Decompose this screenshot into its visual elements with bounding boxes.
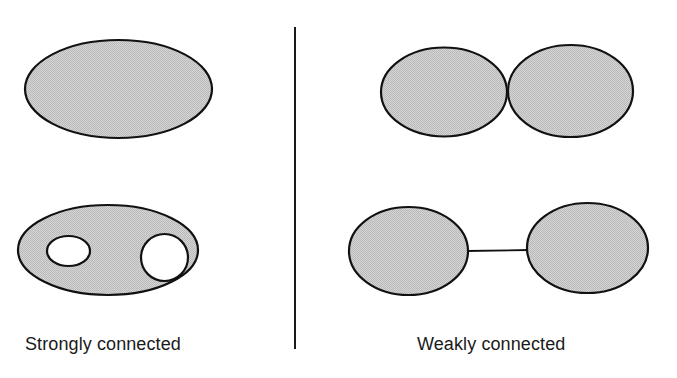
hole-left-ellipse: [47, 236, 90, 266]
caption-weakly-connected: Weakly connected: [417, 334, 565, 354]
right-panel-group: [349, 45, 648, 295]
diagram-canvas: [0, 0, 677, 378]
hole-right-circle: [141, 234, 188, 281]
figure-container: Strongly connected Weakly connected: [0, 0, 677, 378]
caption-strongly-connected: Strongly connected: [25, 334, 181, 354]
tangent-ellipse-left: [381, 48, 507, 137]
linked-ellipse-left: [349, 207, 468, 295]
tangent-ellipse-right: [508, 45, 633, 137]
connector-line: [466, 250, 529, 251]
single-filled-ellipse: [25, 40, 212, 138]
left-panel-group: [0, 40, 280, 310]
ellipse-with-two-holes: [0, 190, 280, 310]
linked-ellipse-right: [527, 203, 648, 293]
